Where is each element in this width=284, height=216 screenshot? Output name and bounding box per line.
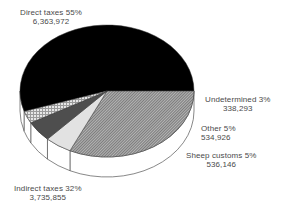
label-other-title: Other 5% (201, 124, 236, 133)
label-direct-taxes-value: 6,363,972 (20, 17, 82, 26)
label-indirect-taxes-value: 3,735,855 (14, 193, 82, 202)
label-sheep-customs-title: Sheep customs 5% (186, 151, 257, 160)
pie-top-face (20, 25, 194, 157)
label-undetermined-title: Undetermined 3% (205, 95, 271, 104)
label-other-value: 534,926 (201, 133, 236, 142)
label-direct-taxes: Direct taxes 55% 6,363,972 (20, 8, 82, 26)
label-sheep-customs-value: 536,146 (186, 160, 257, 169)
label-indirect-taxes-title: Indirect taxes 32% (14, 184, 82, 193)
label-direct-taxes-title: Direct taxes 55% (20, 8, 82, 17)
label-sheep-customs: Sheep customs 5% 536,146 (186, 151, 257, 169)
label-indirect-taxes: Indirect taxes 32% 3,735,855 (14, 184, 82, 202)
label-undetermined-value: 338,293 (205, 104, 271, 113)
label-undetermined: Undetermined 3% 338,293 (205, 95, 271, 113)
label-other: Other 5% 534,926 (201, 124, 236, 142)
